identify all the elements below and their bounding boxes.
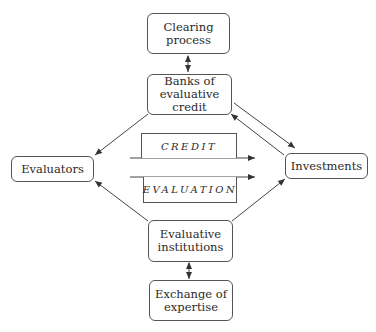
node-label: Clearing process	[163, 21, 213, 47]
flow-label-text: CREDIT	[161, 141, 217, 152]
node-investments: Investments	[285, 153, 368, 179]
node-label: Evaluative institutions	[158, 228, 224, 254]
arrow-institutions-investments	[232, 179, 285, 221]
arrow-banks-investments	[234, 103, 295, 148]
node-label: Evaluators	[21, 163, 84, 176]
node-exchange-of-expertise: Exchange of expertise	[149, 280, 233, 321]
arrow-institutions-evaluators	[95, 181, 148, 221]
node-banks-of-evaluative-credit: Banks of evaluative credit	[147, 74, 232, 115]
node-label: Exchange of expertise	[155, 288, 227, 314]
node-evaluators: Evaluators	[11, 156, 94, 182]
node-clearing-process: Clearing process	[147, 13, 230, 54]
flow-label-credit: CREDIT	[141, 133, 237, 158]
flow-label-text: EVALUATION	[143, 184, 238, 195]
flow-label-evaluation: EVALUATION	[143, 177, 237, 203]
node-label: Investments	[291, 160, 362, 173]
node-evaluative-institutions: Evaluative institutions	[148, 220, 233, 262]
node-label: Banks of evaluative credit	[151, 75, 228, 114]
